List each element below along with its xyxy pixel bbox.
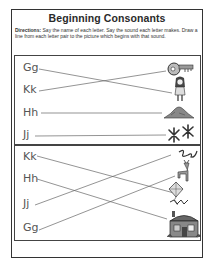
jump-rope-icon	[177, 149, 199, 159]
hill-icon	[163, 104, 195, 119]
directions-label: Directions:	[15, 27, 41, 33]
matching-section-1: Gg Kk Hh Jj	[14, 55, 201, 145]
matching-section-2: Kk Hh Jj Gg	[14, 145, 201, 241]
goat-icon	[175, 159, 191, 183]
worksheet-title: Beginning Consonants	[12, 12, 202, 24]
house-icon	[167, 208, 201, 240]
kite-tail-icon	[169, 198, 191, 206]
girl-icon	[173, 76, 187, 102]
key-icon	[167, 60, 195, 76]
directions-text: Say the name of each letter. Say the sou…	[15, 27, 198, 39]
directions: Directions: Say the name of each letter.…	[15, 27, 201, 40]
jacks-icon	[165, 124, 197, 144]
worksheet: Beginning Consonants Directions: Say the…	[11, 9, 203, 258]
